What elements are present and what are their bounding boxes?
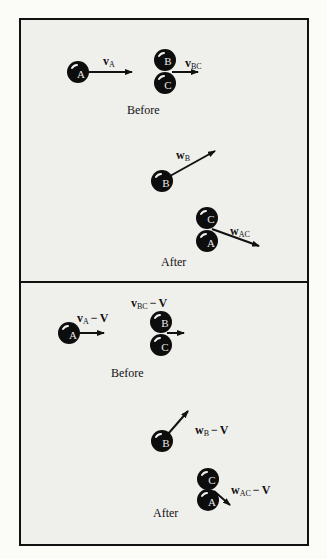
ball-B-top-after: B xyxy=(151,170,173,192)
vector-V: V xyxy=(159,296,168,310)
vector-V: V xyxy=(220,423,229,437)
label-wAC-minus-V: wAC−V xyxy=(231,484,270,498)
label-vBC-minus-V: vBC−V xyxy=(131,297,167,311)
vector-symbol: w xyxy=(195,423,204,437)
vector-subscript: A xyxy=(83,317,89,326)
vector-V: V xyxy=(100,311,109,325)
svg-text:B: B xyxy=(161,317,168,329)
caption-after-top: After xyxy=(161,256,186,268)
label-vA-minus-V: vA−V xyxy=(77,312,108,326)
vector-subscript: B xyxy=(185,154,190,163)
ball-C-top-before: C xyxy=(154,72,176,94)
vector-subscript: A xyxy=(109,60,115,69)
svg-text:C: C xyxy=(161,341,168,353)
vector-symbol: w xyxy=(230,224,239,238)
ball-C-bottom-after: C xyxy=(197,468,219,490)
svg-text:A: A xyxy=(208,496,216,508)
label-wAC: wAC xyxy=(230,225,250,239)
vector-subscript: B xyxy=(204,429,209,438)
label-vA: vA xyxy=(103,55,115,69)
collision-diagram: A B C B C A A B C xyxy=(0,0,327,559)
ball-A-top-after: A xyxy=(196,230,218,252)
svg-text:C: C xyxy=(208,474,215,486)
svg-text:A: A xyxy=(77,68,85,80)
vector-symbol: w xyxy=(231,483,240,497)
vector-subscript: BC xyxy=(191,62,202,71)
minus-sign: − xyxy=(211,423,218,437)
ball-B-bottom-after: B xyxy=(151,430,173,452)
caption-before-bottom: Before xyxy=(111,367,144,379)
vector-symbol: w xyxy=(176,148,185,162)
minus-sign: − xyxy=(150,296,157,310)
vector-subscript: AC xyxy=(239,230,250,239)
ball-C-top-after: C xyxy=(196,207,218,229)
ball-B-top-before: B xyxy=(154,49,176,71)
svg-text:A: A xyxy=(207,237,215,249)
minus-sign: − xyxy=(91,311,98,325)
svg-text:C: C xyxy=(207,213,214,225)
vector-V: V xyxy=(262,483,271,497)
minus-sign: − xyxy=(253,483,260,497)
vector-subscript: BC xyxy=(137,302,148,311)
label-wB: wB xyxy=(176,149,190,163)
caption-before-top: Before xyxy=(127,104,160,116)
svg-text:C: C xyxy=(164,79,171,91)
svg-text:B: B xyxy=(164,55,171,67)
ball-B-bottom-before: B xyxy=(150,311,172,333)
ball-A-top-before: A xyxy=(67,61,89,83)
svg-text:A: A xyxy=(69,329,77,341)
ball-A-bottom-after: A xyxy=(197,489,219,511)
ball-C-bottom-before: C xyxy=(150,334,172,356)
caption-after-bottom: After xyxy=(153,507,178,519)
svg-text:B: B xyxy=(162,177,169,189)
label-vBC: vBC xyxy=(185,57,202,71)
label-wB-minus-V: wB−V xyxy=(195,424,229,438)
svg-text:B: B xyxy=(162,437,169,449)
arrow-wB-minus-V xyxy=(168,411,188,434)
vector-subscript: AC xyxy=(240,489,251,498)
